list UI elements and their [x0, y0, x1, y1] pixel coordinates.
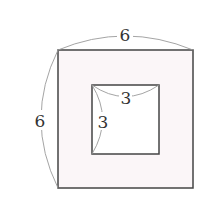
geometry-diagram: 6 6 3 3 — [0, 0, 218, 215]
inner-left-label: 3 — [98, 112, 109, 132]
outer-top-label: 6 — [120, 25, 131, 45]
outer-left-label: 6 — [35, 111, 46, 131]
inner-top-label: 3 — [121, 88, 132, 108]
